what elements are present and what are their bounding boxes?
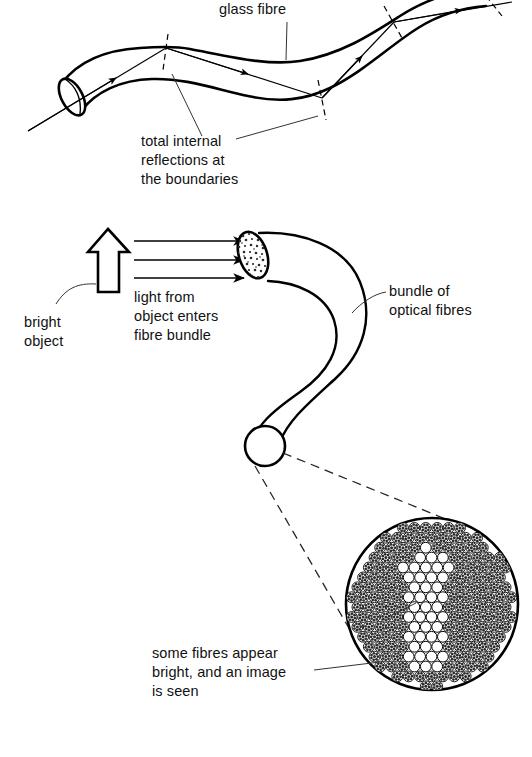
fibre-speckle (467, 598, 470, 601)
fibre-speckle (384, 659, 387, 662)
fibre-speckle (370, 603, 373, 606)
fibre-speckle (357, 609, 360, 612)
fibre-speckle (445, 676, 448, 679)
ray-segment-3-arrow (322, 56, 362, 98)
fibre-bright (409, 622, 420, 633)
fibre-speckle (393, 623, 396, 626)
fibre-speckle (353, 598, 356, 601)
ray-segment-4-arrow (394, 10, 462, 22)
fibre-speckle (478, 578, 481, 581)
fibre-speckle (366, 583, 369, 586)
fibre-speckle (379, 606, 382, 609)
fibre-speckle (453, 533, 456, 536)
fibre-speckle (490, 623, 493, 626)
fibre-speckle (440, 539, 443, 542)
fibre-speckle (428, 526, 431, 529)
fibre-speckle (436, 530, 439, 533)
fibre-speckle (476, 655, 479, 658)
fibre-speckle (439, 525, 442, 528)
fibre-speckle (462, 665, 465, 668)
fibre-speckle (473, 617, 476, 620)
fibre-speckle (349, 593, 352, 596)
fibre-speckle (391, 563, 394, 566)
fibre-speckle (456, 537, 459, 540)
bundle-inner-wall (251, 281, 337, 449)
fibre-speckle (503, 629, 506, 632)
fibre-speckle (444, 584, 447, 587)
fibre-speckle (421, 539, 424, 542)
fibre-speckle (482, 629, 485, 632)
fibre-bright (415, 651, 426, 662)
fibre-speckle (367, 569, 370, 572)
fibre-speckle (398, 606, 401, 609)
fibre-speckle (469, 563, 472, 566)
fibre-speckle (375, 559, 378, 562)
fibre-speckle (399, 614, 402, 617)
fibre-speckle (396, 556, 399, 559)
fibre-speckle (404, 623, 407, 626)
fibre-speckle (472, 557, 475, 560)
fibre-speckle (411, 544, 414, 547)
fibre-speckle (454, 659, 457, 662)
fibre-speckle (472, 662, 475, 665)
fibre-speckle (449, 589, 452, 592)
fibre-speckle (498, 593, 501, 596)
fibre-speckle (393, 537, 396, 540)
fibre-speckle (490, 566, 493, 569)
fibre-speckle (387, 587, 390, 590)
fibre-speckle (455, 673, 458, 676)
fibre-speckle (427, 675, 430, 678)
fibre-speckle (380, 622, 383, 625)
fibre-speckle (451, 658, 454, 661)
fibre-bright (409, 562, 420, 573)
fibre-speckle (411, 537, 414, 540)
fibre-speckle (499, 573, 502, 576)
fibre-speckle (478, 665, 481, 668)
fibre-speckle (490, 578, 493, 581)
fibre-speckle (381, 597, 384, 600)
fibre-speckle (494, 563, 497, 566)
fibre-speckle (398, 673, 401, 676)
fibre-speckle (510, 599, 513, 602)
fibre-speckle (366, 648, 369, 651)
fibre-speckle (473, 625, 476, 628)
fibre-speckle (456, 664, 459, 667)
fibre-speckle (495, 555, 498, 558)
fibre-speckle (443, 678, 446, 681)
fibre-speckle (459, 586, 462, 589)
fibre-speckle (424, 526, 427, 529)
fibre-speckle (376, 565, 379, 568)
fibre-speckle (436, 685, 439, 688)
fibre-speckle (411, 549, 414, 552)
fibre-speckle (410, 546, 413, 549)
fibre-speckle (476, 616, 479, 619)
fibre-speckle (393, 568, 396, 571)
fibre-speckle (482, 583, 485, 586)
fibre-speckle (461, 663, 464, 666)
fibre-speckle (405, 626, 408, 629)
fibre-speckle (496, 586, 499, 589)
fibre-speckle (393, 595, 396, 598)
fibre-speckle (389, 589, 392, 592)
fibre-speckle (421, 686, 424, 689)
fibre-speckle (371, 606, 374, 609)
fibre-speckle (403, 668, 406, 671)
fibre-speckle (390, 645, 393, 648)
fibre-speckle (381, 608, 384, 611)
fibre-speckle (483, 662, 486, 665)
fibre-speckle (465, 593, 468, 596)
fibre-speckle (376, 584, 379, 587)
fibre-speckle (365, 598, 368, 601)
fibre-speckle (502, 614, 505, 617)
fibre-speckle (450, 655, 453, 658)
fibre-speckle (384, 655, 387, 658)
fibre-speckle (387, 633, 390, 636)
fibre-speckle (394, 546, 397, 549)
fibre-speckle (444, 545, 447, 548)
fibre-speckle (403, 543, 406, 546)
fibre-speckle (470, 606, 473, 609)
fibre-speckle (496, 618, 499, 621)
fibre-speckle (476, 540, 479, 543)
fibre-speckle (462, 625, 465, 628)
fibre-speckle (402, 526, 405, 529)
